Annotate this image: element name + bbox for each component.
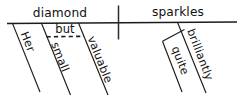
sentence-diagram-canvas: diamond sparkles Her small but valuable … [0,0,244,103]
label-modifier-valuable: valuable [85,34,115,85]
label-modifier-small: small [48,40,71,73]
label-modifier-her: Her [18,30,38,54]
connector-line-quite [163,30,185,42]
label-subject-diamond: diamond [33,6,87,20]
label-conjunction-but: but [55,22,75,36]
label-verb-sparkles: sparkles [152,5,204,19]
label-modifier-brilliantly: brilliantly [184,27,216,83]
conjunction-dashed-line [47,36,85,37]
sentence-diagram: diamond sparkles Her small but valuable … [0,0,244,103]
